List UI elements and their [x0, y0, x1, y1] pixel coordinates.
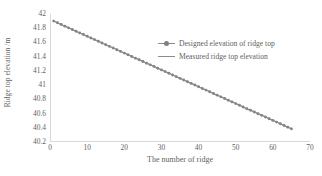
legend-item-measured[interactable]: Measured ridge top elevation	[158, 51, 318, 62]
x-axis-tick-label: 50	[232, 143, 239, 153]
chart-legend: Designed elevation of ridge top Measured…	[158, 38, 318, 64]
legend-item-designed[interactable]: Designed elevation of ridge top	[158, 38, 318, 49]
y-axis-tick-label: 40.6	[33, 110, 46, 118]
y-axis-tick-label: 40.2	[33, 138, 46, 146]
series-plot	[50, 14, 310, 142]
x-axis-tick-label: 40	[195, 143, 202, 153]
x-axis-title: The number of ridge	[50, 155, 310, 164]
x-axis-tick-label: 70	[306, 143, 313, 153]
y-axis-title-label: Ridge top elevation /m	[4, 38, 13, 108]
y-axis-tick-label: 41.2	[33, 67, 46, 75]
y-axis-tick-label: 40.8	[33, 95, 46, 103]
legend-item-label: Designed elevation of ridge top	[179, 39, 275, 48]
y-axis-tick-label: 41.8	[33, 24, 46, 32]
legend-line-icon	[158, 52, 175, 61]
x-axis-tick-label: 30	[158, 143, 165, 153]
legend-item-label: Measured ridge top elevation	[179, 52, 268, 61]
y-axis-tick-label: 40.4	[33, 124, 46, 132]
x-axis-tick-label: 0	[48, 143, 52, 153]
x-axis-tick-label: 20	[121, 143, 128, 153]
y-axis-tick-label: 41.6	[33, 38, 46, 46]
plot-area	[50, 14, 310, 142]
line-chart: Ridge top elevation /m 40.240.440.640.84…	[0, 0, 322, 176]
y-axis-tick-labels: 40.240.440.640.84141.241.441.641.842	[16, 8, 48, 142]
legend-marker-line-icon	[158, 39, 175, 48]
x-axis-tick-labels: 010203040506070	[50, 143, 310, 155]
y-axis-title: Ridge top elevation /m	[0, 0, 16, 145]
x-axis-tick-label: 60	[269, 143, 276, 153]
y-axis-tick-label: 41.4	[33, 53, 46, 61]
y-axis-tick-label: 42	[39, 10, 46, 18]
x-axis-tick-label: 10	[83, 143, 90, 153]
y-axis-tick-label: 41	[39, 81, 46, 89]
